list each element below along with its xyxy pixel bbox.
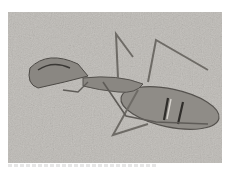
caption-text <box>8 164 158 167</box>
insect-photo <box>8 12 222 163</box>
insect-illustration <box>8 12 222 163</box>
